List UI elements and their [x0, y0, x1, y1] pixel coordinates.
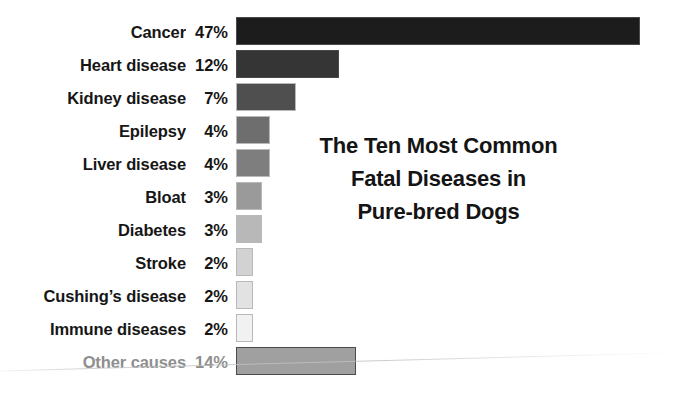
title-line-1: The Ten Most Common — [296, 129, 581, 162]
bar — [236, 215, 262, 243]
value-label: 3% — [186, 182, 230, 211]
category-label: Bloat — [0, 182, 186, 211]
value-label: 7% — [186, 83, 230, 112]
bar — [236, 116, 270, 144]
value-label: 2% — [186, 281, 230, 310]
bar-row: Immune diseases2% — [0, 314, 649, 347]
bar — [236, 17, 640, 45]
bar — [236, 314, 253, 342]
value-label: 14% — [186, 347, 230, 376]
chart-title: The Ten Most Common Fatal Diseases in Pu… — [296, 129, 581, 228]
category-label: Immune diseases — [0, 314, 186, 343]
bar — [236, 149, 270, 177]
value-label: 3% — [186, 215, 230, 244]
bar — [236, 50, 339, 78]
bar — [236, 347, 356, 375]
bar-row: Cushing’s disease2% — [0, 281, 649, 314]
bar-track — [230, 347, 649, 380]
value-label: 4% — [186, 149, 230, 178]
category-label: Liver disease — [0, 149, 186, 178]
category-label: Kidney disease — [0, 83, 186, 112]
value-label: 47% — [186, 17, 230, 46]
category-label: Diabetes — [0, 215, 186, 244]
bar-row: Stroke2% — [0, 248, 649, 281]
bar — [236, 83, 296, 111]
title-line-2: Fatal Diseases in — [296, 162, 581, 195]
bar-track — [230, 281, 649, 314]
bar — [236, 182, 262, 210]
bar — [236, 281, 253, 309]
bar-row: Other causes14% — [0, 347, 649, 380]
value-label: 12% — [186, 50, 230, 79]
bar-row: Heart disease12% — [0, 50, 649, 83]
bar-row: Kidney disease7% — [0, 83, 649, 116]
bar-track — [230, 83, 649, 116]
bar-row: Cancer47% — [0, 17, 649, 50]
value-label: 4% — [186, 116, 230, 145]
category-label: Stroke — [0, 248, 186, 277]
bar-track — [230, 17, 649, 50]
bar — [236, 248, 253, 276]
category-label: Epilepsy — [0, 116, 186, 145]
value-label: 2% — [186, 314, 230, 343]
category-label: Cushing’s disease — [0, 281, 186, 310]
bar-track — [230, 50, 649, 83]
value-label: 2% — [186, 248, 230, 277]
category-label: Cancer — [0, 17, 186, 46]
bar-track — [230, 314, 649, 347]
category-label: Other causes — [0, 347, 186, 376]
title-line-3: Pure-bred Dogs — [296, 195, 581, 228]
category-label: Heart disease — [0, 50, 186, 79]
bar-track — [230, 248, 649, 281]
